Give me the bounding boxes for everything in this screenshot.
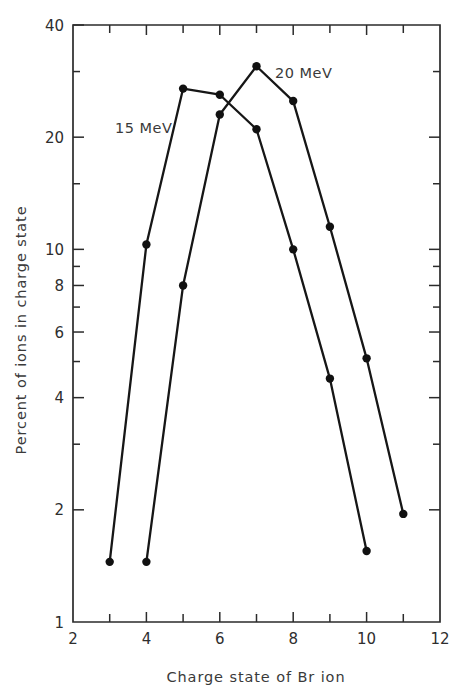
- data-point-marker: [142, 558, 150, 566]
- data-point-marker: [252, 62, 260, 70]
- y-tick-label: 40: [45, 17, 64, 35]
- data-point-marker: [106, 558, 114, 566]
- chart-svg-canvas: 12468102040 24681012 15 MeV 20 MeV Charg…: [0, 0, 465, 695]
- y-tick-label: 20: [45, 129, 64, 147]
- data-point-marker: [142, 240, 150, 248]
- series-polyline: [110, 89, 367, 562]
- data-point-marker: [179, 84, 187, 92]
- y-tick-label: 8: [54, 277, 64, 295]
- plot-frame-border: [73, 25, 440, 622]
- y-tick-label: 4: [54, 389, 64, 407]
- x-tick-label: 10: [357, 630, 376, 648]
- data-series: [106, 84, 371, 566]
- x-tick-label: 6: [215, 630, 225, 648]
- data-point-marker: [362, 547, 370, 555]
- x-tick-label: 4: [142, 630, 152, 648]
- data-series-layer: [106, 62, 408, 566]
- x-axis-title: Charge state of Br ion: [167, 669, 346, 685]
- data-point-marker: [399, 510, 407, 518]
- plot-frame: [73, 25, 440, 622]
- data-point-marker: [179, 281, 187, 289]
- data-point-marker: [216, 110, 224, 118]
- y-tick-label: 10: [45, 241, 64, 259]
- data-point-marker: [216, 91, 224, 99]
- data-series: [142, 62, 407, 566]
- y-axis-tick-labels: 12468102040: [45, 17, 64, 632]
- x-tick-label: 2: [68, 630, 78, 648]
- y-tick-label: 2: [54, 501, 64, 519]
- data-point-marker: [362, 354, 370, 362]
- series-annotation-20mev: 20 MeV: [275, 65, 332, 81]
- x-tick-label: 12: [430, 630, 449, 648]
- data-point-marker: [326, 223, 334, 231]
- data-point-marker: [289, 97, 297, 105]
- series-annotation-15mev: 15 MeV: [115, 120, 172, 136]
- data-point-marker: [252, 125, 260, 133]
- x-axis-major-ticks: [146, 25, 366, 622]
- data-point-marker: [326, 374, 334, 382]
- y-axis-title: Percent of ions in charge state: [13, 206, 29, 455]
- data-point-marker: [289, 245, 297, 253]
- y-tick-label: 1: [54, 614, 64, 632]
- y-tick-label: 6: [54, 324, 64, 342]
- chart-figure-root: 12468102040 24681012 15 MeV 20 MeV Charg…: [0, 0, 465, 695]
- series-polyline: [146, 66, 403, 562]
- x-tick-label: 8: [288, 630, 298, 648]
- x-axis-minor-ticks: [110, 25, 404, 622]
- x-axis-tick-labels: 24681012: [68, 630, 449, 648]
